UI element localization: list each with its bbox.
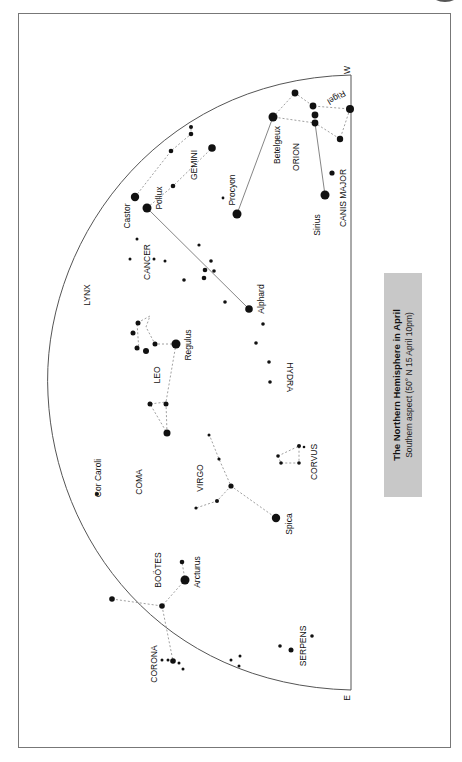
star-procyon <box>233 210 242 219</box>
star <box>329 170 334 175</box>
star <box>161 659 164 662</box>
star-label-procyon: Procyon <box>227 174 237 205</box>
constellation-label-virgo: VIRGO <box>195 464 205 492</box>
star <box>222 197 225 200</box>
star <box>170 658 176 664</box>
constellation-label-canis-major: CANIS MAJOR <box>338 169 348 227</box>
star <box>278 644 282 648</box>
star <box>303 446 306 449</box>
star-arcturus <box>181 576 190 585</box>
star <box>337 136 343 142</box>
star <box>167 659 170 662</box>
star <box>268 380 272 384</box>
constellation-label-orion: ORION <box>291 143 301 171</box>
east-label: E <box>342 695 352 701</box>
star <box>109 596 115 602</box>
star <box>159 603 165 609</box>
chart-title: The Northern Hemisphere in April <box>391 273 403 497</box>
star-label-betelgeux: Betelgeux <box>272 125 282 164</box>
star <box>254 341 258 345</box>
star <box>164 430 171 437</box>
star <box>169 149 174 154</box>
constellation-label-gemini: GEMINI <box>189 150 199 180</box>
constellation-label-leo: LEO <box>152 366 162 383</box>
star-label-regulus: Regulus <box>183 329 193 360</box>
star <box>310 634 314 638</box>
star <box>178 662 181 665</box>
star-regulus <box>172 340 181 349</box>
star <box>182 668 185 671</box>
constellation-label-cancer: CANCER <box>142 244 152 280</box>
star <box>238 665 241 668</box>
star <box>197 243 200 246</box>
star <box>131 331 136 336</box>
star <box>208 434 211 437</box>
star <box>276 454 280 458</box>
star <box>182 278 186 282</box>
star <box>312 120 319 127</box>
star-alphard <box>245 305 253 313</box>
star-rigel <box>346 105 354 113</box>
star <box>292 90 299 97</box>
star <box>180 560 185 565</box>
star-label-alphard: Alphard <box>256 284 266 314</box>
star-castor <box>131 193 139 201</box>
star-label-rigel: Rigel <box>326 88 348 106</box>
star <box>164 260 167 263</box>
star <box>136 238 139 241</box>
star <box>279 461 283 465</box>
star-pollux <box>143 204 152 213</box>
star <box>189 132 194 137</box>
star-betelgeux <box>269 113 278 122</box>
star <box>297 461 301 465</box>
star <box>208 144 216 152</box>
star-label-castor: Castor <box>122 203 132 228</box>
star <box>135 346 140 351</box>
star-spica <box>272 514 280 522</box>
constellation-label-corvus: CORVUS <box>309 444 319 481</box>
star <box>267 360 271 364</box>
star <box>261 322 265 326</box>
star <box>203 268 208 273</box>
star <box>215 499 219 503</box>
star <box>230 659 233 662</box>
constellation-label-hydra: HYDRA <box>285 362 295 392</box>
star <box>209 259 213 263</box>
chart-title-box: The Northern Hemisphere in April Souther… <box>384 273 422 497</box>
star-label-arcturus: Arcturus <box>192 556 202 588</box>
star <box>164 402 169 407</box>
star <box>312 112 319 119</box>
star-label-spica: Spica <box>284 513 294 535</box>
constellation-label-corona: CORONA <box>149 645 159 683</box>
star <box>153 342 158 347</box>
star-sirius <box>321 191 330 200</box>
star <box>171 184 176 189</box>
star <box>212 269 216 273</box>
west-label: W <box>342 66 352 74</box>
star <box>223 300 227 304</box>
star <box>148 402 153 407</box>
star-label-sirius: Sirius <box>312 214 322 235</box>
constellation-label-lynx: LYNX <box>82 284 92 306</box>
star <box>136 321 141 326</box>
star <box>228 483 233 488</box>
star <box>310 103 317 110</box>
chart-subtitle: Southern aspect (50° N 15 April 10pm) <box>403 273 415 497</box>
star <box>153 258 156 261</box>
constellation-label-bootes: BOÖTES <box>153 552 163 588</box>
sky-dome-arc <box>48 75 351 690</box>
star <box>202 276 207 281</box>
star <box>239 655 242 658</box>
star <box>297 444 301 448</box>
constellation-label-serpens: SERPENS <box>298 625 308 666</box>
star <box>189 125 193 129</box>
constellation-label-coma: COMA <box>134 469 144 495</box>
star <box>143 348 149 354</box>
star <box>129 258 132 261</box>
star-label-pollux: Pollux <box>154 186 164 210</box>
star-label-cor-caroli: Cor Caroli <box>93 459 103 497</box>
stars <box>95 90 354 671</box>
star <box>194 506 197 509</box>
star <box>289 648 294 653</box>
star <box>217 457 220 460</box>
